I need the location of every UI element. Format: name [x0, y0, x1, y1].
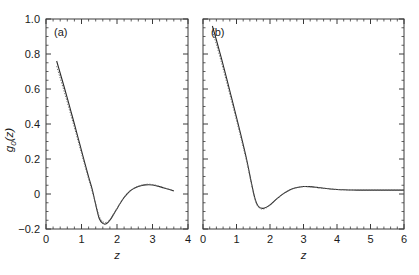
x-tick-label: 6 — [401, 233, 407, 245]
x-tick-label: 0 — [43, 233, 49, 245]
x-tick-label: 4 — [334, 233, 340, 245]
plot-frame — [46, 19, 188, 229]
plot-frame — [203, 19, 404, 229]
x-tick-label: 3 — [149, 233, 155, 245]
plot-svg: g0(z) 01234−0.200.20.40.60.81.0(a)z 0123… — [0, 0, 419, 275]
x-tick-label: 0 — [200, 233, 206, 245]
curve-dotted — [57, 66, 174, 222]
x-tick-label: 1 — [233, 233, 239, 245]
curve-solid — [212, 26, 404, 208]
x-axis-title: z — [300, 249, 307, 261]
figure-container: g0(z) 01234−0.200.20.40.60.81.0(a)z 0123… — [0, 0, 419, 275]
y-tick-label: 0.4 — [25, 118, 40, 130]
x-tick-label: 3 — [300, 233, 306, 245]
panel-label: (b) — [211, 26, 224, 38]
x-axis-title: z — [113, 249, 120, 261]
y-tick-label: 0.2 — [25, 153, 40, 165]
x-tick-label: 2 — [267, 233, 273, 245]
y-tick-label: 0.6 — [25, 83, 40, 95]
x-tick-label: 4 — [185, 233, 191, 245]
y-axis-title: g0(z) — [3, 128, 18, 152]
svg-text:g0(z): g0(z) — [3, 128, 18, 152]
y-tick-label: 0 — [34, 188, 40, 200]
y-axis-title-z: (z) — [3, 128, 15, 142]
y-tick-label: 0.8 — [25, 48, 40, 60]
curve-solid — [57, 61, 174, 224]
x-tick-label: 1 — [78, 233, 84, 245]
x-tick-label: 5 — [367, 233, 373, 245]
panel-label: (a) — [54, 26, 67, 38]
curve-dotted — [212, 31, 404, 209]
y-tick-label: −0.2 — [18, 223, 40, 235]
panel-a: 01234−0.200.20.40.60.81.0(a)z — [18, 13, 191, 261]
y-tick-label: 1.0 — [25, 13, 40, 25]
x-tick-label: 2 — [114, 233, 120, 245]
panel-b: 0123456(b)z — [200, 19, 407, 261]
